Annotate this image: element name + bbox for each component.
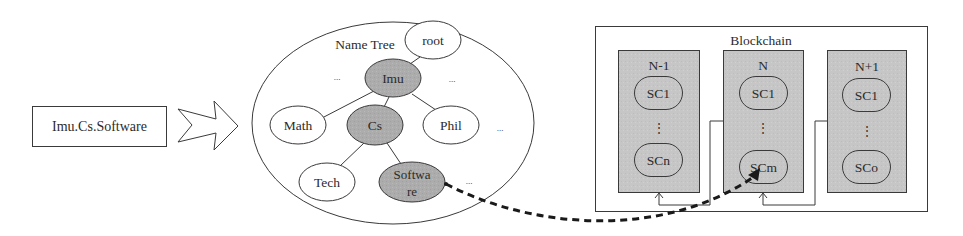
tree-node-tech: Tech xyxy=(299,163,355,201)
tree-node-cs: Cs xyxy=(347,105,403,145)
smart-contract-first: SC1 xyxy=(752,86,775,101)
svg-text:Softwa: Softwa xyxy=(394,167,431,182)
blockchain: Blockchain N-1 SC1 ⋮ SCn N SC1 ⋮ SCm xyxy=(596,27,928,212)
svg-text:Phil: Phil xyxy=(440,118,462,133)
block-n-plus-1: N+1 SC1 ⋮ SCo xyxy=(828,51,907,193)
block-n: N SC1 ⋮ SCm xyxy=(724,51,804,193)
hollow-right-arrow-icon xyxy=(178,101,238,150)
input-name-label: Imu.Cs.Software xyxy=(52,119,147,134)
svg-text:N+1: N+1 xyxy=(855,59,879,74)
smart-contract-last: SCn xyxy=(647,153,671,168)
tree-node-phil: Phil xyxy=(423,106,479,144)
ellipsis-phil-right: ... xyxy=(497,123,504,133)
blockchain-title: Blockchain xyxy=(730,33,792,48)
ellipsis-right: ... xyxy=(449,74,456,84)
input-name-box: Imu.Cs.Software xyxy=(33,107,167,147)
name-tree: Name Tree root Imu Math Cs xyxy=(252,21,534,224)
svg-text:Cs: Cs xyxy=(368,118,382,133)
tree-node-software: Softwa re xyxy=(379,162,445,202)
vertical-dots: ⋮ xyxy=(757,121,769,135)
name-tree-title: Name Tree xyxy=(335,37,395,52)
svg-text:N-1: N-1 xyxy=(649,58,670,73)
svg-text:Tech: Tech xyxy=(314,175,340,190)
vertical-dots: ⋮ xyxy=(861,124,873,138)
tree-node-root: root xyxy=(405,21,461,59)
svg-text:Math: Math xyxy=(284,118,313,133)
smart-contract-first: SC1 xyxy=(855,88,878,103)
tree-node-math: Math xyxy=(270,106,326,144)
svg-text:re: re xyxy=(407,184,417,199)
svg-text:Imu: Imu xyxy=(382,71,404,86)
ellipsis-software-right: ... xyxy=(466,176,473,186)
vertical-dots: ⋮ xyxy=(653,121,665,135)
tree-node-imu: Imu xyxy=(365,59,421,97)
block-n-minus-1: N-1 SC1 ⋮ SCn xyxy=(619,51,700,193)
svg-text:root: root xyxy=(422,33,444,48)
ellipsis-left: ... xyxy=(334,72,341,82)
diagram-canvas: Imu.Cs.Software Name Tree root Imu Mat xyxy=(0,0,963,236)
svg-text:N: N xyxy=(758,58,768,73)
smart-contract-last: SCo xyxy=(855,160,879,175)
smart-contract-first: SC1 xyxy=(647,86,670,101)
